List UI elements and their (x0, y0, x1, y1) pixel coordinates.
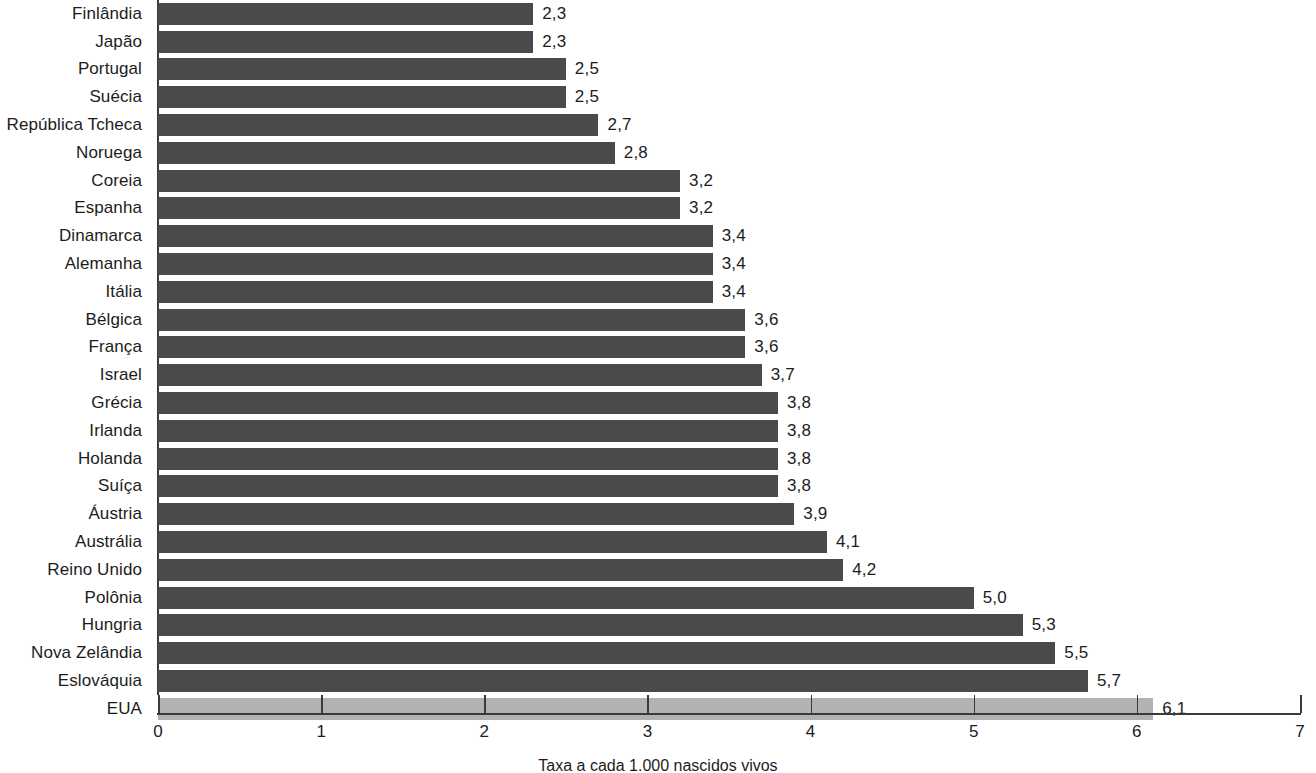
bar-value-label: 3,7 (771, 365, 795, 385)
bar (158, 503, 794, 525)
bar-row: 2,5 (158, 56, 1300, 84)
bar-row: 4,1 (158, 528, 1300, 556)
bar (158, 448, 778, 470)
y-axis-category-labels: FinlândiaJapãoPortugalSuéciaRepública Tc… (0, 0, 150, 695)
y-axis-label: Eslováquia (0, 667, 150, 695)
y-axis-label: Hungria (0, 612, 150, 640)
bar-value-label: 3,4 (722, 282, 746, 302)
bar (158, 281, 713, 303)
bar (158, 392, 778, 414)
y-axis-label: Coreia (0, 167, 150, 195)
y-axis-label: Bélgica (0, 306, 150, 334)
bar-row: 5,5 (158, 639, 1300, 667)
bar-row: 6,1 (158, 695, 1300, 723)
bar-value-label: 2,8 (624, 143, 648, 163)
x-axis-tick (484, 695, 486, 713)
bar-row: 3,6 (158, 334, 1300, 362)
bar-chart: FinlândiaJapãoPortugalSuéciaRepública Tc… (0, 0, 1316, 773)
bar-row: 3,8 (158, 473, 1300, 501)
bar-row: 3,8 (158, 389, 1300, 417)
y-axis-label: Holanda (0, 445, 150, 473)
bar-value-label: 6,1 (1162, 699, 1186, 719)
x-axis-tick (158, 695, 160, 713)
bar-value-label: 3,8 (787, 476, 811, 496)
bar-row: 3,6 (158, 306, 1300, 334)
x-axis-line (157, 713, 1301, 715)
y-axis-label: Espanha (0, 195, 150, 223)
x-axis-tick-label: 4 (806, 722, 815, 742)
bar-value-label: 5,7 (1097, 671, 1121, 691)
bar-row: 2,3 (158, 0, 1300, 28)
x-axis-tick-label: 1 (316, 722, 325, 742)
x-axis-tick (321, 695, 323, 713)
bar-row: 4,2 (158, 556, 1300, 584)
bar-value-label: 5,0 (983, 588, 1007, 608)
y-axis-label: Finlândia (0, 0, 150, 28)
bar (158, 642, 1055, 664)
bar-rows: 2,32,32,52,52,72,83,23,23,43,43,43,63,63… (158, 0, 1300, 695)
bar-row: 3,8 (158, 445, 1300, 473)
bar-value-label: 3,6 (754, 310, 778, 330)
bar-row: 5,7 (158, 667, 1300, 695)
x-axis-tick (1137, 695, 1139, 713)
bar-value-label: 3,4 (722, 226, 746, 246)
bar (158, 559, 843, 581)
y-axis-label: EUA (0, 695, 150, 723)
bar-value-label: 3,2 (689, 198, 713, 218)
bar-value-label: 5,5 (1064, 643, 1088, 663)
y-axis-label: Grécia (0, 389, 150, 417)
x-axis-tick (811, 695, 813, 713)
y-axis-label: Austrália (0, 528, 150, 556)
y-axis-label: Irlanda (0, 417, 150, 445)
x-axis-tick-label: 3 (643, 722, 652, 742)
bar-row: 3,2 (158, 195, 1300, 223)
bar-value-label: 2,3 (542, 4, 566, 24)
x-axis-tick-label: 2 (480, 722, 489, 742)
y-axis-label: Suécia (0, 83, 150, 111)
bar (158, 31, 533, 53)
x-axis-tick-label: 0 (153, 722, 162, 742)
x-axis-tick (1300, 695, 1302, 713)
bar-row: 3,4 (158, 250, 1300, 278)
bar-value-label: 3,4 (722, 254, 746, 274)
bar-value-label: 4,1 (836, 532, 860, 552)
bar (158, 475, 778, 497)
bar-value-label: 3,2 (689, 171, 713, 191)
bar-value-label: 2,7 (607, 115, 631, 135)
bar (158, 225, 713, 247)
y-axis-label: Portugal (0, 56, 150, 84)
y-axis-label: França (0, 334, 150, 362)
x-axis-tick-label: 7 (1295, 722, 1304, 742)
y-axis-label: Japão (0, 28, 150, 56)
y-axis-label: Reino Unido (0, 556, 150, 584)
y-axis-label: Nova Zelândia (0, 639, 150, 667)
bar (158, 614, 1023, 636)
bar (158, 531, 827, 553)
bar (158, 364, 762, 386)
bar-row: 3,4 (158, 278, 1300, 306)
plot-area: 2,32,32,52,52,72,83,23,23,43,43,43,63,63… (158, 0, 1300, 695)
bar (158, 670, 1088, 692)
bar-value-label: 3,8 (787, 421, 811, 441)
bar-value-label: 3,8 (787, 449, 811, 469)
bar-row: 2,8 (158, 139, 1300, 167)
bar-row: 3,7 (158, 361, 1300, 389)
bar-value-label: 2,5 (575, 87, 599, 107)
y-axis-label: Polônia (0, 584, 150, 612)
x-axis-tick-label: 5 (969, 722, 978, 742)
bar (158, 698, 1153, 720)
bar (158, 336, 745, 358)
bar (158, 309, 745, 331)
y-axis-label: Alemanha (0, 250, 150, 278)
y-axis-label: Noruega (0, 139, 150, 167)
y-axis-label: Israel (0, 361, 150, 389)
bar-row: 3,2 (158, 167, 1300, 195)
bar (158, 86, 566, 108)
bar-value-label: 3,6 (754, 337, 778, 357)
bar-value-label: 2,3 (542, 32, 566, 52)
bar-row: 3,4 (158, 222, 1300, 250)
bar-value-label: 4,2 (852, 560, 876, 580)
bar (158, 170, 680, 192)
bar-row: 2,3 (158, 28, 1300, 56)
y-axis-label: Suíça (0, 473, 150, 501)
